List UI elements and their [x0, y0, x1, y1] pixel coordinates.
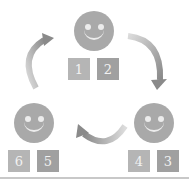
card-5: 5: [37, 150, 59, 172]
arrow-left-to-top-icon: [29, 33, 54, 88]
arrow-right-to-left-icon: [76, 124, 125, 141]
mouth: [84, 30, 104, 40]
card-2: 2: [97, 58, 119, 80]
mouth: [24, 122, 44, 132]
card-6: 6: [8, 150, 30, 172]
mouth: [144, 122, 164, 132]
arrow-top-to-right-icon: [128, 36, 167, 90]
smiley-face-icon: [74, 11, 114, 51]
card-1: 1: [68, 58, 90, 80]
smiley-face-icon: [134, 103, 174, 143]
card-3: 3: [157, 150, 179, 172]
card-4: 4: [128, 150, 150, 172]
baseline-divider: [0, 177, 189, 179]
smiley-face-icon: [14, 103, 54, 143]
